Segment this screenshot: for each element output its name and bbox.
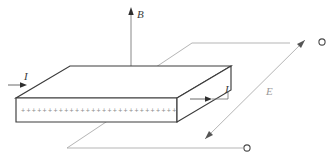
charge-plus: + (21, 107, 25, 114)
b-field-arrowhead (128, 7, 133, 15)
charge-plus: + (26, 107, 30, 114)
charge-plus: + (161, 107, 165, 114)
charge-plus: + (172, 107, 176, 114)
charge-plus: + (118, 107, 122, 114)
terminal-bottom-right (244, 145, 250, 151)
current-left-arrowhead (20, 82, 27, 88)
charge-plus: + (124, 107, 128, 114)
current-arrow-left-group: I (8, 70, 29, 88)
charge-plus: + (86, 107, 90, 114)
charge-plus: + (53, 107, 57, 114)
charge-plus: + (59, 107, 63, 114)
charge-plus: + (134, 107, 138, 114)
charge-plus: + (91, 107, 95, 114)
charge-plus: + (145, 107, 149, 114)
charge-plus: + (107, 107, 111, 114)
electric-field-label: E (265, 85, 273, 97)
terminal-top-right (319, 39, 325, 45)
hall-effect-figure: + + + + + + + + + + + + + + + + + + + + (0, 0, 335, 166)
charge-plus: + (48, 107, 52, 114)
charge-plus: + (37, 107, 41, 114)
charge-plus: + (32, 107, 36, 114)
charge-plus: + (43, 107, 47, 114)
charge-plus: + (70, 107, 74, 114)
charge-plus: + (140, 107, 144, 114)
charge-plus: + (102, 107, 106, 114)
positive-charge-row: + + + + + + + + + + + + + + + + + + + + (21, 107, 176, 114)
charge-plus: + (113, 107, 117, 114)
charge-plus: + (97, 107, 101, 114)
charge-plus: + (156, 107, 160, 114)
slab-front-face: + + + + + + + + + + + + + + + + + + + + (16, 98, 177, 122)
charge-plus: + (64, 107, 68, 114)
current-left-label: I (23, 70, 29, 82)
charge-plus: + (167, 107, 171, 114)
diagram-canvas: + + + + + + + + + + + + + + + + + + + + (0, 0, 335, 166)
charge-plus: + (75, 107, 79, 114)
charge-plus: + (129, 107, 133, 114)
charge-plus: + (151, 107, 155, 114)
charge-plus: + (80, 107, 84, 114)
magnetic-field-label: B (137, 8, 144, 20)
